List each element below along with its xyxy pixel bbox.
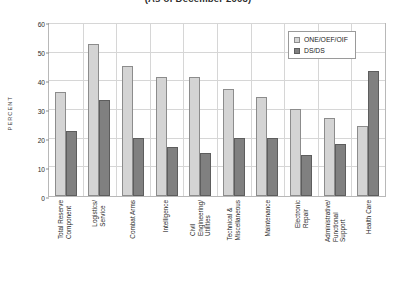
x-axis-category-text: Total Reserve Component bbox=[57, 200, 72, 239]
x-axis-category-label: Electronic Repair bbox=[285, 200, 319, 282]
x-axis-category-label: Health Care bbox=[352, 200, 386, 282]
legend-item-ds-ds: DS/DS bbox=[294, 47, 348, 54]
bar bbox=[267, 138, 278, 196]
x-axis-category-label: Maintenance bbox=[251, 200, 285, 282]
bar-chart: (As of December 2003) PERCENT 0102030405… bbox=[0, 0, 396, 284]
x-axis-category-text: Administrative/ Functional Support bbox=[324, 200, 347, 242]
x-axis-category-text: Health Care bbox=[365, 200, 373, 234]
bar-group bbox=[116, 24, 150, 196]
y-axis-label: PERCENT bbox=[7, 96, 21, 130]
x-axis-category-label: Logistics/ Service bbox=[82, 200, 116, 282]
legend-label: DS/DS bbox=[304, 47, 325, 54]
bar bbox=[66, 131, 77, 196]
y-axis-tick-label: 50 bbox=[38, 50, 45, 57]
bar bbox=[368, 71, 379, 196]
bar-group bbox=[351, 24, 385, 196]
bar bbox=[200, 153, 211, 197]
x-axis-category-label: Technical & Miscellaneous bbox=[217, 200, 251, 282]
y-axis-tick-label: 30 bbox=[38, 108, 45, 115]
y-axis-tick-label: 60 bbox=[38, 21, 45, 28]
y-axis-tick-label: 10 bbox=[38, 166, 45, 173]
bar-group bbox=[49, 24, 83, 196]
x-axis-category-label: Civil Engineering/ Utilities bbox=[183, 200, 217, 282]
bar bbox=[335, 144, 346, 196]
bar bbox=[357, 126, 368, 196]
x-axis-category-text: Intelligence bbox=[162, 200, 170, 232]
bar bbox=[324, 118, 335, 196]
bar bbox=[189, 77, 200, 196]
bar bbox=[133, 138, 144, 196]
x-axis-category-text: Electronic Repair bbox=[294, 200, 309, 228]
x-axis-category-text: Civil Engineering/ Utilities bbox=[189, 200, 212, 236]
bar bbox=[256, 97, 267, 196]
x-axis-category-label: Total Reserve Component bbox=[48, 200, 82, 282]
bar bbox=[99, 100, 110, 196]
y-axis-tick-label: 0 bbox=[41, 195, 45, 202]
bar-group bbox=[183, 24, 217, 196]
x-axis-category-text: Technical & Miscellaneous bbox=[226, 200, 241, 241]
x-axis-category-text: Combat Arms bbox=[129, 200, 137, 239]
bar bbox=[122, 66, 133, 197]
legend-label: ONE/OEF/OIF bbox=[304, 36, 348, 43]
bar-group bbox=[217, 24, 251, 196]
legend-swatch-icon bbox=[294, 37, 300, 43]
x-axis-category-label: Intelligence bbox=[149, 200, 183, 282]
bar-group bbox=[150, 24, 184, 196]
chart-legend: ONE/OEF/OIF DS/DS bbox=[288, 31, 356, 59]
bar bbox=[88, 44, 99, 196]
x-axis-labels: Total Reserve ComponentLogistics/ Servic… bbox=[48, 200, 386, 282]
bar bbox=[290, 109, 301, 196]
bar bbox=[234, 138, 245, 196]
x-axis-category-label: Administrative/ Functional Support bbox=[318, 200, 352, 282]
y-axis-tick-label: 20 bbox=[38, 137, 45, 144]
x-axis-category-text: Logistics/ Service bbox=[91, 200, 106, 227]
bar bbox=[55, 92, 66, 196]
chart-title: (As of December 2003) bbox=[0, 0, 396, 4]
bar-group bbox=[251, 24, 285, 196]
x-axis-category-text: Maintenance bbox=[264, 200, 272, 237]
legend-swatch-icon bbox=[294, 48, 300, 54]
legend-item-one-oef-oif: ONE/OEF/OIF bbox=[294, 36, 348, 43]
bar bbox=[223, 89, 234, 196]
x-axis-category-label: Combat Arms bbox=[116, 200, 150, 282]
y-axis-tick-label: 40 bbox=[38, 79, 45, 86]
bar bbox=[156, 77, 167, 196]
bar-group bbox=[83, 24, 117, 196]
bar bbox=[301, 155, 312, 196]
y-axis-tick-mark bbox=[46, 198, 49, 199]
bar bbox=[167, 147, 178, 196]
